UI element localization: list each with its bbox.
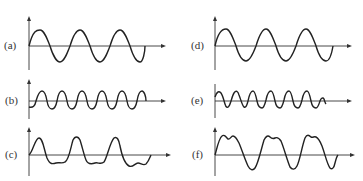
panel-b-axes — [27, 79, 166, 119]
panel-c-label: (c) — [5, 149, 17, 160]
panel-d-label: (d) — [191, 40, 204, 51]
panel-e-label: (e) — [191, 95, 203, 106]
panel-f-label: (f) — [192, 149, 203, 160]
panel-a-label: (a) — [4, 40, 16, 51]
panel-f-waveform — [215, 135, 338, 169]
panel-e-waveform — [215, 91, 326, 108]
panel-c-axes — [27, 127, 171, 176]
panel-c-waveform — [29, 137, 151, 166]
waveform-diagram — [0, 0, 363, 181]
panel-d-waveform — [215, 29, 333, 61]
panel-a-axes — [27, 16, 166, 70]
panel-b-label: (b) — [5, 95, 18, 106]
panel-d-axes — [213, 16, 352, 70]
panel-b-waveform — [29, 91, 146, 109]
